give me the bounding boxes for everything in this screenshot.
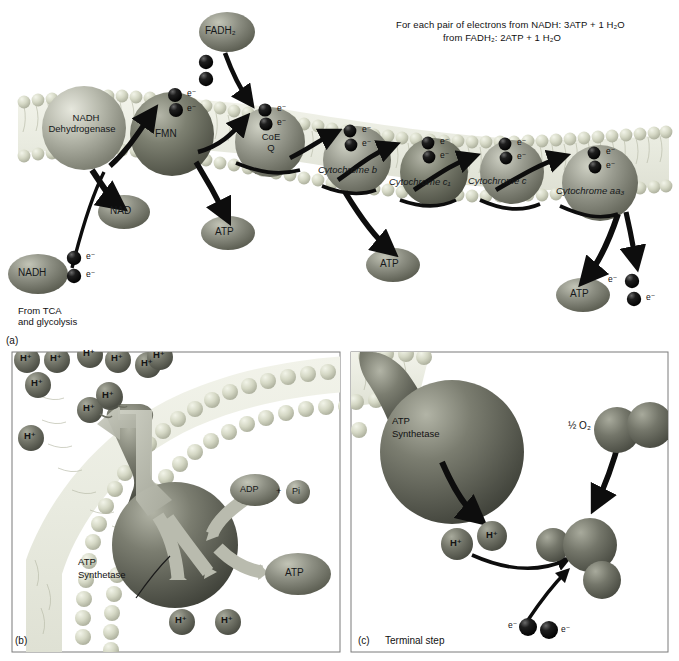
label-coe-q: CoE Q bbox=[258, 132, 284, 154]
proton-label-b-1: H⁺ bbox=[20, 353, 32, 364]
panel-c-caption-text: Terminal step bbox=[385, 635, 444, 647]
label-plus-b: + bbox=[276, 486, 281, 496]
carrier-cytochrome-c1[interactable] bbox=[400, 138, 468, 206]
electron-label-coeq-1: e⁻ bbox=[277, 104, 286, 114]
figure-root: For each pair of electrons from NADH: 3A… bbox=[0, 0, 679, 661]
proton-label-b-2: H⁺ bbox=[50, 353, 62, 364]
electron-label-aa3-2: e⁻ bbox=[606, 161, 615, 171]
carrier-cytochrome-b[interactable] bbox=[323, 126, 391, 194]
panel-b-caption: (b) bbox=[15, 635, 27, 647]
label-atp-synthetase-b: ATP Synthetase bbox=[78, 556, 126, 582]
panel-a-caption: (a) bbox=[6, 335, 18, 347]
proton-label-c-1: H⁺ bbox=[450, 538, 462, 549]
label-atp-2: ATP bbox=[380, 258, 399, 270]
label-pi-b: Pi bbox=[292, 486, 300, 496]
label-adp-b: ADP bbox=[240, 484, 259, 494]
label-nad: NAD bbox=[110, 205, 131, 217]
label-atp-1: ATP bbox=[215, 226, 234, 238]
proton-label-b-7: H⁺ bbox=[31, 378, 43, 389]
proton-label-c-2: H⁺ bbox=[486, 530, 498, 541]
electron-label-cytc-1: e⁻ bbox=[517, 138, 526, 148]
electron-label-aa3-out-1: e⁻ bbox=[608, 275, 617, 285]
label-atp-b: ATP bbox=[285, 567, 304, 579]
electron-label-c-1: e⁻ bbox=[508, 621, 517, 631]
electron-label-coeq-2: e⁻ bbox=[277, 118, 286, 128]
electron-label-c-2: e⁻ bbox=[561, 625, 570, 635]
label-oxygen-c: ½ O₂ bbox=[568, 420, 591, 432]
water-molecule-c bbox=[536, 518, 621, 599]
electron-label-cytb-2: e⁻ bbox=[362, 139, 371, 149]
carrier-cytochrome-c[interactable] bbox=[480, 140, 544, 204]
proton-label-b-3: H⁺ bbox=[83, 348, 95, 359]
label-atp-synthetase-c: ATP Synthetase bbox=[392, 415, 440, 441]
label-fadh2: FADH₂ bbox=[205, 25, 236, 37]
label-atp-3: ATP bbox=[570, 288, 589, 300]
electron-label-cytc1-2: e⁻ bbox=[440, 151, 449, 161]
source-note: From TCA and glycolysis bbox=[18, 306, 77, 328]
label-cytochrome-c1: Cytochrome c₁ bbox=[389, 177, 451, 188]
proton-label-b-9: H⁺ bbox=[24, 431, 36, 442]
oxygen-molecule-c bbox=[594, 402, 673, 453]
electron-label-cytc-2: e⁻ bbox=[517, 152, 526, 162]
label-cytochrome-c: Cytochrome c bbox=[468, 176, 527, 187]
proton-label-b-4: H⁺ bbox=[111, 353, 123, 364]
label-nadh: NADH bbox=[18, 267, 46, 279]
proton-label-b-8: H⁺ bbox=[102, 390, 114, 401]
label-fmn: FMN bbox=[155, 128, 177, 140]
panel-c-caption: (c) bbox=[358, 635, 370, 647]
atp-synthetase-c[interactable] bbox=[359, 352, 524, 524]
electron-label-aa3-out-2: e⁻ bbox=[646, 293, 655, 303]
label-cytochrome-aa3: Cytochrome aa₃ bbox=[556, 186, 624, 197]
proton-label-b-10: H⁺ bbox=[83, 403, 95, 414]
electron-label-fmn-1: e⁻ bbox=[187, 89, 196, 99]
proton-label-b-out-2: H⁺ bbox=[221, 615, 233, 626]
electron-label-cytc1-1: e⁻ bbox=[440, 137, 449, 147]
proton-label-b-5: H⁺ bbox=[141, 358, 153, 369]
proton-label-b-6: H⁺ bbox=[153, 350, 165, 361]
label-nadh-dehydrogenase: NADH Dehydrogenase bbox=[56, 113, 116, 135]
electron-label-aa3-1: e⁻ bbox=[606, 147, 615, 157]
electron-label-nadh-1: e⁻ bbox=[86, 252, 95, 262]
label-cytochrome-b: Cytochrome b bbox=[318, 165, 377, 176]
equation-line-1: For each pair of electrons from NADH: 3A… bbox=[396, 20, 625, 31]
electrons-c bbox=[519, 618, 558, 639]
equation-line-2: from FADH₂: 2ATP + 1 H₂O bbox=[443, 33, 561, 44]
electron-label-fmn-2: e⁻ bbox=[187, 104, 196, 114]
proton-label-b-out-1: H⁺ bbox=[175, 615, 187, 626]
electron-label-nadh-2: e⁻ bbox=[86, 270, 95, 280]
electron-label-cytb-1: e⁻ bbox=[362, 125, 371, 135]
